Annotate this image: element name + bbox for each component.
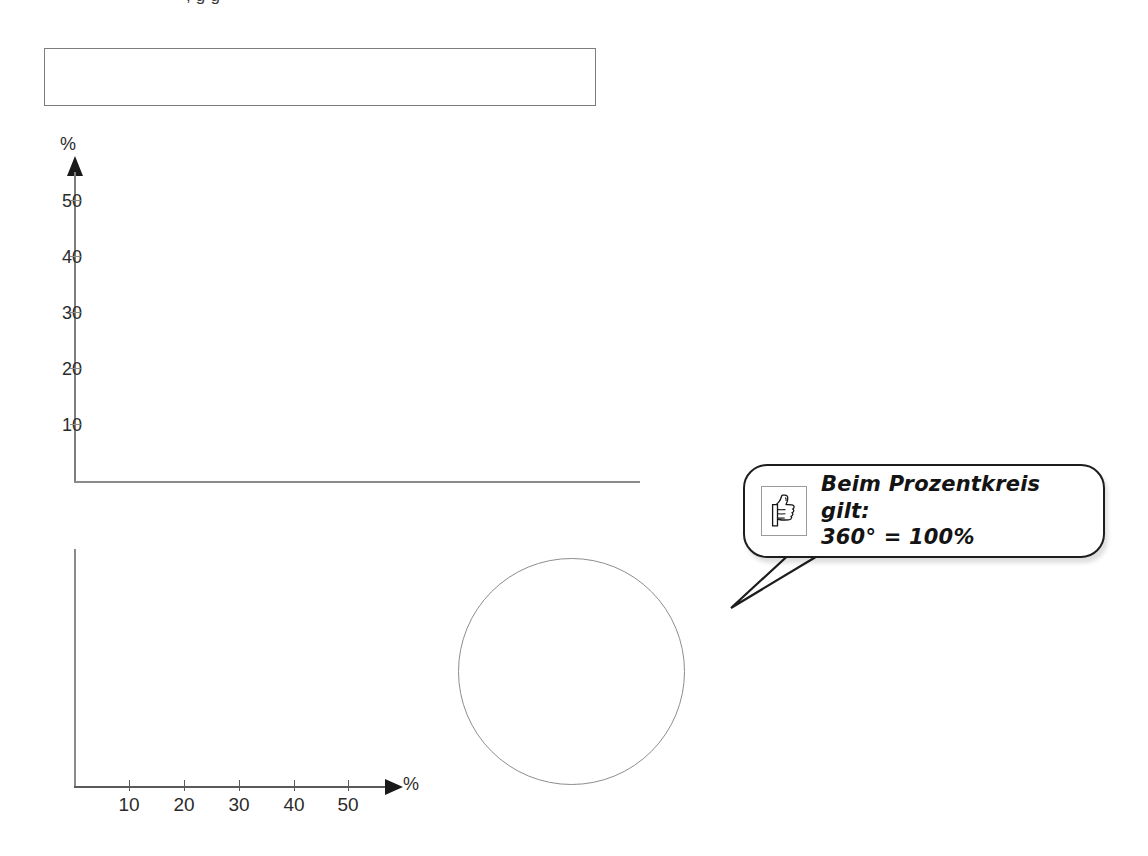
lower-chart-x-tick-50: 50	[328, 795, 368, 814]
hint-bubble-text: Beim Prozentkreis gilt: 360° = 100%	[821, 471, 1087, 552]
upper-chart-y-tick-50: 50	[0, 192, 82, 210]
percent-circle[interactable]	[458, 558, 685, 785]
lower-chart-x-tick-30: 30	[219, 795, 259, 814]
upper-chart: % 50 40 30 20 10	[0, 130, 700, 500]
lower-chart-y-axis	[74, 549, 76, 787]
y-tick-mark	[70, 200, 81, 201]
x-tick-mark	[239, 780, 240, 791]
x-tick-mark	[294, 780, 295, 791]
upper-chart-y-tick-10: 10	[0, 416, 82, 434]
upper-chart-y-tick-30: 30	[0, 304, 82, 322]
x-tick-mark	[348, 780, 349, 791]
answer-box[interactable]	[44, 48, 596, 106]
lower-chart-x-unit-label: %	[403, 774, 419, 795]
lower-chart-x-axis	[74, 786, 387, 788]
y-tick-mark	[70, 368, 81, 369]
upper-chart-y-axis	[74, 172, 76, 482]
upper-chart-x-axis	[74, 481, 640, 483]
cut-off-header-text: , g g	[186, 0, 706, 8]
upper-chart-y-unit-label: %	[60, 134, 76, 155]
y-tick-mark	[70, 256, 81, 257]
lower-chart-x-tick-40: 40	[274, 795, 314, 814]
upper-chart-y-tick-40: 40	[0, 248, 82, 266]
worksheet-page: , g g % 50 40 30 20 10	[0, 0, 1148, 856]
lower-chart: % 10 20 30 40 50	[0, 540, 460, 840]
speech-bubble-tail-icon	[726, 550, 856, 610]
x-tick-mark	[129, 780, 130, 791]
hint-bubble-group: Beim Prozentkreis gilt: 360° = 100%	[726, 458, 1116, 613]
lower-chart-x-axis-arrow-icon	[385, 779, 403, 795]
y-tick-mark	[70, 424, 81, 425]
hint-bubble: Beim Prozentkreis gilt: 360° = 100%	[743, 464, 1105, 558]
lower-chart-x-tick-20: 20	[164, 795, 204, 814]
y-tick-mark	[70, 312, 81, 313]
lower-chart-x-tick-10: 10	[109, 795, 149, 814]
thumbs-up-icon	[761, 486, 807, 536]
upper-chart-y-tick-20: 20	[0, 360, 82, 378]
x-tick-mark	[184, 780, 185, 791]
